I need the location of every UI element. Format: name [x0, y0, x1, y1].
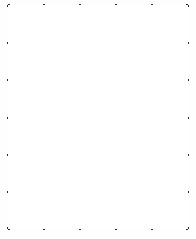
grid-cell[interactable] — [152, 117, 188, 154]
grid-cell[interactable] — [44, 80, 80, 117]
grid-cell[interactable] — [152, 80, 188, 117]
grid-cell[interactable] — [116, 80, 152, 117]
grid-cell[interactable] — [80, 117, 116, 154]
grid-table — [8, 5, 188, 229]
grid-cell[interactable] — [152, 154, 188, 191]
table-row — [8, 80, 188, 117]
grid-cell[interactable] — [116, 154, 152, 191]
grid-cell[interactable] — [44, 5, 80, 42]
grid-cell[interactable] — [80, 154, 116, 191]
grid-cell[interactable] — [44, 192, 80, 229]
grid-cell[interactable] — [8, 5, 44, 42]
grid-cell[interactable] — [80, 192, 116, 229]
grid-cell[interactable] — [80, 5, 116, 42]
grid-canvas — [0, 0, 196, 239]
grid-cell[interactable] — [116, 117, 152, 154]
grid-cell[interactable] — [152, 5, 188, 42]
grid-cell[interactable] — [44, 117, 80, 154]
table-row — [8, 5, 188, 42]
grid-cell[interactable] — [44, 42, 80, 79]
table-row — [8, 154, 188, 191]
grid-cell[interactable] — [152, 42, 188, 79]
table-row — [8, 192, 188, 229]
grid-cell[interactable] — [116, 5, 152, 42]
table-row — [8, 117, 188, 154]
grid-cell[interactable] — [80, 42, 116, 79]
grid-cell[interactable] — [8, 117, 44, 154]
grid-cell[interactable] — [8, 192, 44, 229]
grid-cell[interactable] — [116, 42, 152, 79]
table-row — [8, 42, 188, 79]
grid-cell[interactable] — [152, 192, 188, 229]
grid-cell[interactable] — [80, 80, 116, 117]
grid-cell[interactable] — [8, 80, 44, 117]
grid-cell[interactable] — [116, 192, 152, 229]
grid-cell[interactable] — [8, 154, 44, 191]
grid-table-body — [8, 5, 188, 229]
grid-cell[interactable] — [44, 154, 80, 191]
grid-cell[interactable] — [8, 42, 44, 79]
